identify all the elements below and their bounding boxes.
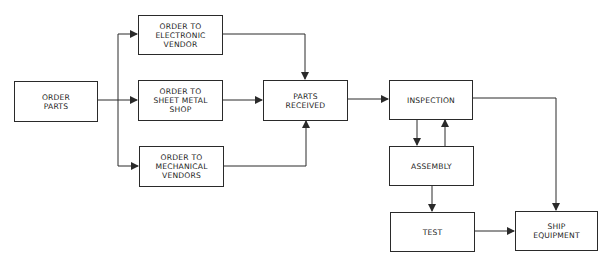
node-order-parts: ORDER PARTS (14, 81, 98, 122)
node-assembly: ASSEMBLY (389, 146, 474, 186)
node-order-mechanical-vendors: ORDER TO MECHANICAL VENDORS (139, 146, 224, 187)
node-label: INSPECTION (407, 96, 455, 105)
node-label: TEST (423, 228, 443, 237)
node-label: ORDER TO SHEET METAL SHOP (153, 87, 207, 114)
node-order-electronic-vendor: ORDER TO ELECTRONIC VENDOR (138, 15, 223, 55)
edge-electronic-to-parts-received (222, 34, 305, 79)
node-label: PARTS RECEIVED (286, 92, 326, 110)
node-label: ASSEMBLY (411, 162, 452, 171)
node-label: SHIP EQUIPMENT (533, 222, 580, 240)
node-parts-received: PARTS RECEIVED (263, 80, 348, 121)
edge-mechanical-to-parts-received (223, 121, 306, 166)
node-ship-equipment: SHIP EQUIPMENT (515, 211, 598, 251)
node-label: ORDER TO MECHANICAL VENDORS (155, 153, 207, 180)
node-label: ORDER TO ELECTRONIC VENDOR (155, 22, 205, 49)
node-order-sheet-metal-shop: ORDER TO SHEET METAL SHOP (138, 80, 223, 121)
edge-inspection-to-ship (472, 98, 556, 210)
node-label: ORDER PARTS (42, 93, 70, 111)
node-inspection: INSPECTION (389, 80, 473, 120)
node-test: TEST (390, 212, 475, 252)
